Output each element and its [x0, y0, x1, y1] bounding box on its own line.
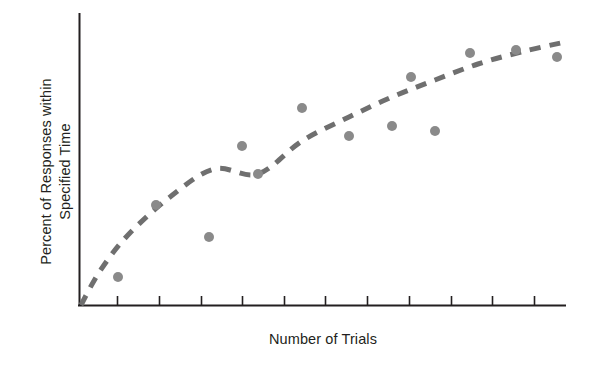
y-axis-title: Percent of Responses within Specified Ti…	[37, 57, 74, 287]
data-point-3	[237, 141, 247, 151]
trend-curve-dashed	[81, 42, 565, 305]
plot-area	[0, 0, 596, 377]
data-point-0	[113, 272, 123, 282]
data-point-6	[344, 131, 354, 141]
data-point-7	[387, 121, 397, 131]
data-point-8	[406, 72, 416, 82]
scatter-markers	[113, 45, 562, 282]
x-axis-ticks	[118, 296, 535, 305]
data-point-5	[297, 103, 307, 113]
data-point-11	[511, 45, 521, 55]
data-point-4	[253, 169, 263, 179]
data-point-2	[204, 232, 214, 242]
x-axis-title: Number of Trials	[78, 330, 568, 349]
data-point-12	[552, 52, 562, 62]
data-point-9	[430, 126, 440, 136]
chart-figure: Percent of Responses within Specified Ti…	[0, 0, 596, 377]
data-point-10	[465, 48, 475, 58]
data-point-1	[151, 200, 161, 210]
